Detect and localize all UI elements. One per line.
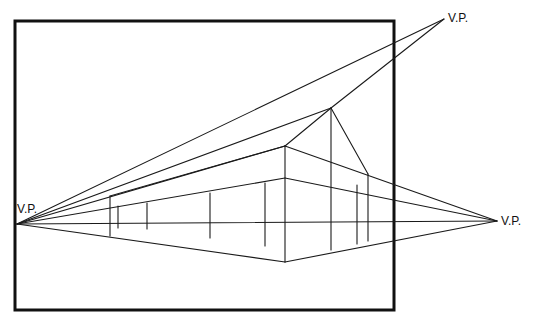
- vp-left-to-top-vp: [17, 19, 444, 224]
- vp-top-label: V.P.: [448, 11, 468, 25]
- picture-frame: [15, 21, 394, 310]
- vp-left-to-roof-peak: [17, 108, 331, 224]
- vp-right-to-wall-top: [285, 178, 497, 221]
- vp-left-to-base: [17, 224, 285, 262]
- construction-lines: [17, 19, 497, 262]
- vp-right-to-eave: [285, 146, 497, 221]
- perspective-drawing: V.P. V.P. V.P.: [0, 0, 536, 326]
- roof-peak-to-corner: [285, 108, 331, 146]
- vp-left-label: V.P.: [17, 202, 37, 216]
- roof-left-slope: [110, 146, 285, 196]
- vp-right-label: V.P.: [501, 214, 521, 228]
- vp-left-horizon: [17, 221, 497, 224]
- vp-right-to-base: [285, 221, 497, 262]
- roof-peak-to-vp-top: [331, 19, 444, 108]
